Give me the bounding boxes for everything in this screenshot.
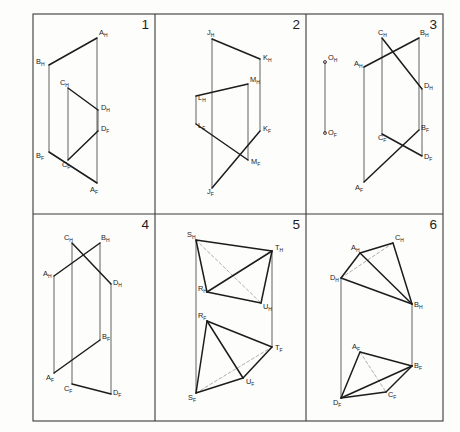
- point-label-u-f: UF: [246, 377, 254, 387]
- panel-number-1: 1: [141, 17, 149, 32]
- visible-edge-line: [212, 39, 260, 59]
- visible-edge-line: [196, 378, 243, 393]
- point-label-b-f: BF: [421, 123, 429, 133]
- point-label-m-f: MF: [251, 157, 260, 167]
- point-label-c-f: CF: [62, 160, 70, 170]
- visible-edge-line: [68, 131, 98, 160]
- visible-edge-line: [364, 130, 419, 182]
- point-label-b-f: BF: [102, 332, 110, 342]
- point-label-b-h: BH: [36, 57, 45, 67]
- point-label-a-h: AH: [354, 59, 363, 69]
- point-labels: AHBHCHDHDFCFBFAFJHKHMHLHLFKFMFJFOHOFCHBH…: [36, 28, 433, 408]
- point-label-c-f: CF: [378, 133, 386, 143]
- point-label-a-f: AF: [355, 183, 363, 193]
- point-label-u-h: UH: [263, 302, 272, 312]
- point-label-d-h: DH: [424, 81, 433, 91]
- worksheet-page: AHBHCHDHDFCFBFAFJHKHMHLHLFKFMFJFOHOFCHBH…: [0, 0, 460, 432]
- point-label-k-h: KH: [263, 53, 272, 63]
- visible-edge-line: [54, 340, 100, 373]
- point-label-d-f: DF: [113, 388, 121, 398]
- visible-edge-line: [360, 243, 393, 253]
- panel-frame: [33, 14, 443, 421]
- point-label-t-h: TH: [275, 243, 284, 253]
- point-label-r-f: RF: [198, 311, 206, 321]
- panel-number-2: 2: [292, 17, 300, 32]
- point-label-c-f: CF: [64, 384, 72, 394]
- panel-number-3: 3: [429, 17, 437, 32]
- visible-edge-line: [386, 366, 412, 392]
- visible-edge-line: [341, 253, 360, 278]
- visible-edge-line: [341, 278, 412, 304]
- point-label-j-f: JF: [207, 187, 214, 197]
- panel-number-5: 5: [292, 217, 300, 232]
- point-label-d-h: DH: [113, 278, 122, 288]
- point-label-d-h: DH: [101, 103, 110, 113]
- visible-edge-line: [360, 352, 412, 366]
- visible-edge-line: [207, 251, 272, 292]
- visible-edge-line: [49, 152, 97, 183]
- point-label-d-f: DF: [424, 152, 432, 162]
- point-label-c-f: CF: [388, 390, 396, 400]
- point-label-d-f: DF: [333, 398, 341, 408]
- point-label-a-h: AH: [43, 269, 52, 279]
- visible-edge-line: [196, 84, 248, 96]
- panel-number-6: 6: [429, 217, 437, 232]
- point-label-m-h: MH: [250, 75, 260, 85]
- point-label-j-h: JH: [207, 28, 215, 38]
- drawing-sheet: AHBHCHDHDFCFBFAFJHKHMHLHLFKFMFJFOHOFCHBH…: [0, 0, 460, 432]
- visible-edge-line: [68, 88, 98, 110]
- point-label-a-h: AH: [99, 28, 108, 38]
- point-label-o-f: OF: [328, 128, 337, 138]
- point-label-b-h: BH: [101, 233, 110, 243]
- point-label-a-h: AH: [351, 243, 360, 253]
- visible-edge-line: [382, 38, 422, 89]
- point-label-c-h: CH: [60, 78, 69, 88]
- sheet-border: [33, 14, 443, 421]
- point-label-d-f: DF: [101, 124, 109, 134]
- visible-edge-line: [382, 134, 422, 156]
- visible-edge-line: [49, 38, 97, 65]
- visible-edge-line: [243, 347, 272, 378]
- visible-edge-line: [207, 292, 261, 303]
- visible-edge-line: [72, 384, 111, 394]
- point-label-t-f: TF: [275, 343, 283, 353]
- point-label-k-f: KF: [263, 124, 271, 134]
- point-label-l-f: LF: [198, 121, 205, 131]
- visible-edge-line: [261, 251, 272, 303]
- point-label-a-f: AF: [352, 342, 360, 352]
- point-label-b-h: BH: [414, 300, 423, 310]
- point-label-s-h: SH: [187, 230, 196, 240]
- point-label-c-h: CH: [395, 233, 404, 243]
- point-label-d-h: DH: [330, 273, 339, 283]
- point-label-c-h: CH: [378, 28, 387, 38]
- visible-edge-line: [207, 321, 272, 347]
- visible-edge-line: [207, 321, 243, 378]
- panel-numbers: 123456: [141, 17, 437, 232]
- point-label-b-f: BF: [36, 151, 44, 161]
- panel-figures: [49, 38, 422, 398]
- visible-edge-line: [196, 321, 207, 393]
- point-label-o-h: OH: [328, 53, 338, 63]
- hidden-edge-line: [196, 347, 272, 393]
- visible-edge-line: [196, 240, 272, 251]
- point-label-a-f: AF: [90, 185, 98, 195]
- panel-number-4: 4: [141, 217, 149, 232]
- point-label-b-h: BH: [420, 28, 429, 38]
- point-label-s-f: SF: [188, 393, 196, 403]
- visible-edge-line: [364, 38, 419, 67]
- point-label-a-f: AF: [46, 373, 54, 383]
- point-label-c-h: CH: [64, 233, 73, 243]
- point-label-b-f: BF: [414, 361, 422, 371]
